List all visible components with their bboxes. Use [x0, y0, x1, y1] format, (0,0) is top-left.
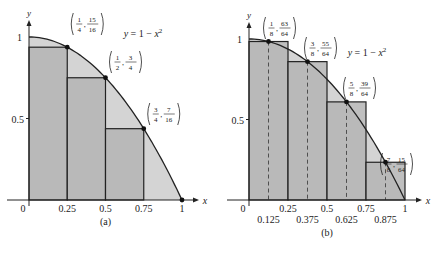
- riemann-rectangle: [67, 78, 105, 200]
- y-tick-label: 1: [237, 34, 242, 45]
- point-label: 34,716: [148, 103, 180, 125]
- comma: ,: [356, 84, 358, 93]
- y-axis-arrow-icon: [27, 20, 32, 26]
- frac-x-num: 7: [387, 156, 391, 164]
- x-tick-label: 0.5: [99, 203, 112, 214]
- frac-y-num: 63: [281, 20, 289, 28]
- riemann-sum-figure: xy0.5100.250.50.75114,151612,3434,716y =…: [0, 0, 439, 253]
- x-tick-label: 0.75: [135, 203, 153, 214]
- riemann-rectangle: [29, 47, 67, 200]
- frac-y-den: 64: [322, 50, 330, 58]
- frac-x-den: 8: [311, 50, 315, 58]
- sample-point: [141, 126, 146, 131]
- frac-y-num: 7: [167, 106, 171, 114]
- x-tick-label: 0.25: [279, 203, 297, 214]
- paren-left: [110, 51, 112, 73]
- x-tick-label: 1: [403, 203, 408, 214]
- frac-y-den: 16: [89, 26, 97, 34]
- frac-x-num: 1: [116, 54, 120, 62]
- frac-x-den: 2: [116, 64, 120, 72]
- x-axis-arrow-icon: [193, 198, 199, 203]
- comma: ,: [276, 24, 278, 33]
- frac-x-num: 3: [311, 40, 315, 48]
- x-tick-label: 0.75: [357, 203, 375, 214]
- point-label: 58,3964: [344, 77, 376, 99]
- x-axis-label: x: [202, 195, 208, 206]
- panel-label: (a): [100, 216, 111, 228]
- x-tick-label: 0: [21, 203, 26, 214]
- frac-y-num: 15: [89, 16, 97, 24]
- x-axis-label: x: [425, 195, 431, 206]
- sample-point: [103, 75, 108, 80]
- paren-right: [374, 77, 376, 99]
- sample-point: [65, 45, 70, 50]
- frac-x-num: 5: [350, 80, 354, 88]
- sample-point: [344, 99, 349, 104]
- x-tick-label-midpoint: 0.875: [374, 214, 397, 225]
- chart-panel-a: xy0.5100.250.50.75114,151612,3434,716y =…: [7, 8, 208, 228]
- x-tick-label-midpoint: 0.625: [335, 214, 358, 225]
- paren-right: [294, 17, 296, 39]
- frac-y-num: 15: [398, 156, 406, 164]
- paren-left: [71, 13, 73, 35]
- point-label: 18,6364: [264, 17, 296, 39]
- paren-right: [411, 153, 413, 175]
- frac-x-den: 4: [78, 26, 82, 34]
- x-tick-label: 0.5: [321, 203, 334, 214]
- paren-left: [305, 37, 307, 59]
- x-axis-arrow-icon: [416, 198, 422, 203]
- paren-right: [178, 103, 180, 125]
- frac-y-num: 3: [129, 54, 133, 62]
- frac-x-den: 8: [387, 166, 391, 174]
- x-tick-label: 0: [241, 203, 246, 214]
- comma: ,: [317, 44, 319, 53]
- y-axis-arrow-icon: [247, 22, 252, 28]
- point-label: 14,1516: [71, 13, 103, 35]
- frac-y-num: 39: [361, 80, 369, 88]
- y-axis-label: y: [246, 10, 251, 20]
- comma: ,: [84, 20, 86, 29]
- y-tick-label: 1: [17, 32, 22, 43]
- paren-left: [148, 103, 150, 125]
- paren-left: [264, 17, 266, 39]
- sample-point: [305, 59, 310, 64]
- function-label: y = 1 − x2: [347, 46, 387, 58]
- frac-y-den: 64: [361, 90, 369, 98]
- y-tick-label: 0.5: [12, 114, 25, 125]
- x-tick-label: 0.25: [59, 203, 77, 214]
- frac-y-den: 4: [129, 64, 133, 72]
- point-label: 12,34: [110, 51, 142, 73]
- paren-left: [344, 77, 346, 99]
- frac-y-den: 16: [165, 116, 173, 124]
- comma: ,: [122, 58, 124, 67]
- y-axis-label: y: [26, 8, 31, 18]
- x-tick-label: 1: [180, 203, 185, 214]
- point-label: 38,5564: [305, 37, 337, 59]
- paren-right: [101, 13, 103, 35]
- frac-x-num: 1: [270, 20, 274, 28]
- chart-panel-b: xy0.5100.250.50.7510.1250.3750.6250.8751…: [227, 10, 431, 239]
- frac-x-den: 4: [154, 116, 158, 124]
- paren-right: [140, 51, 142, 73]
- frac-x-num: 3: [154, 106, 158, 114]
- sample-point: [180, 198, 185, 203]
- comma: ,: [160, 110, 162, 119]
- x-tick-label-midpoint: 0.375: [296, 214, 319, 225]
- comma: ,: [393, 160, 395, 169]
- y-tick-label: 0.5: [232, 115, 245, 126]
- riemann-rectangle: [106, 129, 144, 200]
- frac-x-num: 1: [78, 16, 82, 24]
- panel-label: (b): [321, 227, 333, 239]
- frac-y-den: 64: [281, 30, 289, 38]
- frac-x-den: 8: [350, 90, 354, 98]
- function-label: y = 1 − x2: [123, 27, 163, 39]
- frac-x-den: 8: [270, 30, 274, 38]
- x-tick-label-midpoint: 0.125: [257, 214, 280, 225]
- frac-y-num: 55: [322, 40, 330, 48]
- riemann-rectangle: [288, 62, 327, 200]
- sample-point: [266, 39, 271, 44]
- paren-right: [335, 37, 337, 59]
- frac-y-den: 64: [398, 166, 406, 174]
